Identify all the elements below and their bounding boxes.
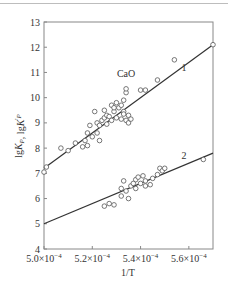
data-point-series-1 <box>124 87 129 92</box>
data-point-series-1 <box>114 100 119 105</box>
data-point-series-1 <box>44 165 49 170</box>
annotation-1: 1 <box>182 62 187 73</box>
chart: 45678910111213 5.0×10−45.2×10−45.4×10−45… <box>0 0 228 290</box>
data-point-series-1 <box>121 112 126 117</box>
annotation-cao: CaO <box>117 68 135 79</box>
fit-line-series-2 <box>44 153 213 224</box>
data-point-series-1 <box>119 103 124 108</box>
data-point-series-2 <box>119 186 124 191</box>
y-tick-label: 6 <box>35 193 40 204</box>
data-point-series-2 <box>150 176 155 181</box>
data-point-series-1 <box>97 138 102 143</box>
y-tick-label: 11 <box>30 67 40 78</box>
y-tick-label: 10 <box>30 92 40 103</box>
data-point-series-1 <box>97 123 102 128</box>
data-point-series-1 <box>92 109 97 114</box>
data-point-series-1 <box>85 131 90 136</box>
data-point-series-2 <box>121 179 126 184</box>
data-point-series-1 <box>129 117 134 122</box>
data-point-series-2 <box>126 196 131 201</box>
data-point-series-1 <box>155 78 160 83</box>
data-point-series-2 <box>201 157 206 162</box>
data-point-series-1 <box>88 123 93 128</box>
data-point-series-2 <box>124 189 129 194</box>
data-point-series-1 <box>66 148 71 153</box>
data-point-series-1 <box>90 134 95 139</box>
y-tick-label: 5 <box>35 218 40 229</box>
data-point-series-2 <box>141 174 146 179</box>
x-tick-label: 5.4×10−4 <box>123 252 159 264</box>
x-axis-label: 1/T <box>121 267 135 278</box>
data-point-series-1 <box>114 116 119 121</box>
y-tick-label: 7 <box>35 168 40 179</box>
data-point-series-1 <box>211 42 216 47</box>
y-axis-label: lgKP, lgK'P <box>13 113 26 157</box>
data-point-series-1 <box>121 98 126 103</box>
data-point-series-1 <box>109 118 114 123</box>
data-point-series-2 <box>138 181 143 186</box>
data-point-series-2 <box>136 175 141 180</box>
x-tick-label: 5.6×10−4 <box>171 252 207 264</box>
data-point-series-2 <box>162 166 167 171</box>
data-point-series-2 <box>143 179 148 184</box>
data-point-series-1 <box>119 117 124 122</box>
data-point-series-1 <box>73 141 78 146</box>
x-tick-label: 5.0×10−4 <box>26 252 62 264</box>
annotation-2: 2 <box>182 150 187 161</box>
data-point-series-1 <box>172 58 177 63</box>
data-point-series-1 <box>85 143 90 148</box>
data-point-series-2 <box>155 172 160 177</box>
data-point-series-1 <box>95 131 100 136</box>
data-point-series-1 <box>112 105 117 110</box>
y-tick-label: 12 <box>30 42 40 53</box>
data-point-series-1 <box>143 88 148 93</box>
data-point-series-1 <box>102 108 107 113</box>
data-point-series-2 <box>133 186 138 191</box>
data-point-series-1 <box>104 122 109 127</box>
data-point-series-2 <box>112 203 117 208</box>
data-point-series-1 <box>42 170 47 175</box>
data-point-series-1 <box>80 145 85 150</box>
data-point-series-1 <box>59 146 64 151</box>
y-tick-label: 8 <box>35 143 40 154</box>
data-point-series-2 <box>102 204 107 209</box>
data-point-series-2 <box>107 201 112 206</box>
y-tick-label: 9 <box>35 117 40 128</box>
data-point-series-1 <box>83 138 88 143</box>
data-point-series-1 <box>138 88 143 93</box>
data-point-series-2 <box>148 182 153 187</box>
x-tick-label: 5.2×10−4 <box>74 252 110 264</box>
data-point-series-2 <box>119 194 124 199</box>
y-tick-label: 13 <box>30 17 40 28</box>
data-point-series-2 <box>143 184 148 189</box>
plot-frame <box>44 22 213 249</box>
